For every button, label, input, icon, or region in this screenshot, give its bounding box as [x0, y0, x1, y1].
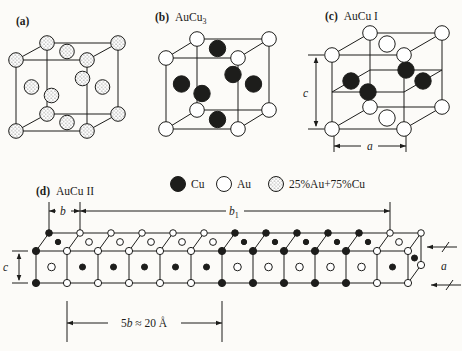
atom-au — [94, 279, 101, 286]
atom-au — [417, 261, 424, 268]
atom-cu — [311, 279, 318, 286]
atom-cu — [232, 230, 239, 237]
dim-a-unitcell-label: a — [367, 140, 373, 152]
atom-cu — [218, 247, 225, 254]
atom-au — [373, 279, 380, 286]
atom-au — [190, 103, 205, 118]
atom-au — [404, 279, 411, 286]
atom-cu — [311, 247, 318, 254]
atom-mix — [40, 36, 55, 51]
atom-au — [262, 32, 277, 47]
dim-c-unitcell-label: c — [303, 87, 308, 99]
atom-cu — [225, 66, 241, 82]
panel-d-structure — [32, 230, 424, 287]
atom-au — [117, 239, 124, 246]
atom-cu — [80, 264, 86, 270]
atom-cu — [356, 230, 363, 237]
atom-au — [94, 247, 101, 254]
panel-c-label: (c)AuCu I — [325, 10, 378, 23]
atom-mix — [80, 124, 95, 139]
atom-au — [265, 263, 273, 271]
atom-cu — [249, 279, 256, 286]
atom-cu — [209, 111, 225, 127]
atom-cu — [390, 264, 396, 270]
atom-au — [397, 122, 412, 137]
arrowhead — [400, 144, 406, 149]
arrowhead — [314, 57, 319, 63]
atom-au — [48, 263, 56, 271]
atom-au — [325, 122, 340, 137]
atom-cu — [32, 247, 39, 254]
legend: Cu Au 25%Au+75%Cu — [171, 177, 366, 192]
atom-au — [379, 110, 395, 126]
atom-mix — [9, 53, 24, 68]
panel-b-label: (b)AuCu3 — [155, 11, 207, 26]
atom-au — [125, 247, 132, 254]
atom-cu — [249, 247, 256, 254]
atom-au — [231, 122, 246, 137]
atom-mix — [75, 71, 90, 86]
atom-au — [179, 239, 186, 246]
dim-b1-label: b1 — [229, 205, 239, 220]
atom-au — [418, 230, 425, 237]
atom-au — [125, 279, 132, 286]
atom-cu — [245, 76, 261, 92]
atom-mix — [24, 80, 39, 95]
atom-au — [63, 247, 70, 254]
atom-au — [108, 230, 115, 237]
arrowhead — [17, 275, 22, 281]
atom-au — [363, 26, 378, 41]
atom-cu — [303, 239, 308, 244]
atom-au — [387, 230, 394, 237]
atom-cu — [342, 247, 349, 254]
arrowhead — [74, 209, 80, 214]
arrowhead — [17, 253, 22, 259]
atom-au — [170, 230, 177, 237]
atom-cu — [209, 40, 225, 56]
atom-cu — [173, 76, 189, 92]
atom-mix — [44, 88, 59, 103]
atom-au — [396, 239, 403, 246]
atom-mix — [60, 115, 75, 130]
atom-cu — [342, 279, 349, 286]
atom-cu — [194, 85, 210, 101]
atom-au — [156, 279, 163, 286]
atom-au — [231, 51, 246, 66]
atom-au — [156, 247, 163, 254]
atom-au — [325, 48, 340, 63]
atom-cu — [173, 264, 179, 270]
atom-au — [262, 103, 277, 118]
atom-au — [234, 263, 242, 271]
atom-au — [201, 230, 208, 237]
panel-c-structure — [325, 26, 450, 137]
atom-au — [296, 263, 304, 271]
atom-cu — [343, 73, 359, 89]
atom-cu — [412, 255, 418, 261]
dim-a-row-label: a — [441, 260, 447, 272]
atom-au — [358, 263, 366, 271]
atom-au — [327, 263, 335, 271]
dim-5b-label: 5b ≈ 20 Å — [121, 316, 168, 329]
arrowhead — [216, 321, 222, 326]
atom-au — [373, 247, 380, 254]
atom-cu — [46, 230, 53, 237]
atom-mix — [95, 80, 110, 95]
atom-au — [159, 51, 174, 66]
atom-cu — [263, 230, 270, 237]
atom-au — [139, 230, 146, 237]
crystal-structure-figure: (a) (b)AuCu3 (c)AuCu I (d)AuCu II Cu Au … — [0, 0, 462, 351]
panel-a-structure — [9, 36, 126, 139]
dim-b-label: b — [60, 205, 66, 217]
legend-mixed-label: 25%Au+75%Cu — [289, 178, 365, 190]
legend-mixed-icon — [269, 177, 284, 192]
panel-d-label: (d)AuCu II — [36, 185, 94, 198]
legend-cu-label: Cu — [191, 178, 205, 190]
atom-cu — [272, 239, 277, 244]
atom-cu — [280, 279, 287, 286]
atom-au — [187, 279, 194, 286]
atom-au — [404, 247, 411, 254]
atom-au — [363, 100, 378, 115]
atom-cu — [365, 239, 370, 244]
atom-mix — [60, 44, 75, 59]
atom-mix — [80, 53, 95, 68]
